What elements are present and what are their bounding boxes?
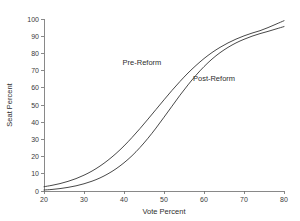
y-tick-label: 20 [31, 153, 39, 160]
y-axis: 0102030405060708090100 [27, 16, 44, 195]
x-tick-label: 40 [120, 196, 128, 203]
y-tick-label: 100 [27, 16, 39, 23]
y-tick-label: 50 [31, 102, 39, 109]
x-axis-ticks: 20304050607080 [40, 191, 288, 203]
series-annotations: Pre-ReformPost-Reform [123, 58, 235, 82]
series-label-pre-reform: Pre-Reform [123, 58, 162, 67]
series-label-post-reform: Post-Reform [193, 74, 235, 83]
y-axis-title: Seat Percent [5, 82, 14, 126]
y-tick-label: 40 [31, 119, 39, 126]
y-axis-ticks: 0102030405060708090100 [27, 16, 44, 195]
x-axis: 20304050607080 [40, 191, 288, 203]
seats-votes-chart: 0102030405060708090100 20304050607080 Pr… [0, 0, 300, 221]
y-tick-label: 80 [31, 50, 39, 57]
y-tick-label: 60 [31, 84, 39, 91]
y-tick-label: 10 [31, 170, 39, 177]
x-tick-label: 60 [200, 196, 208, 203]
x-tick-label: 50 [160, 196, 168, 203]
x-tick-label: 30 [80, 196, 88, 203]
y-tick-label: 0 [35, 188, 39, 195]
y-tick-label: 90 [31, 33, 39, 40]
data-curves [44, 21, 284, 190]
x-tick-label: 20 [40, 196, 48, 203]
x-tick-label: 80 [280, 196, 288, 203]
curve-post-reform [44, 27, 284, 190]
x-tick-label: 70 [240, 196, 248, 203]
x-axis-title: Vote Percent [143, 207, 187, 216]
y-tick-label: 30 [31, 136, 39, 143]
curve-pre-reform [44, 21, 284, 187]
y-tick-label: 70 [31, 67, 39, 74]
chart-canvas: 0102030405060708090100 20304050607080 Pr… [0, 0, 300, 221]
